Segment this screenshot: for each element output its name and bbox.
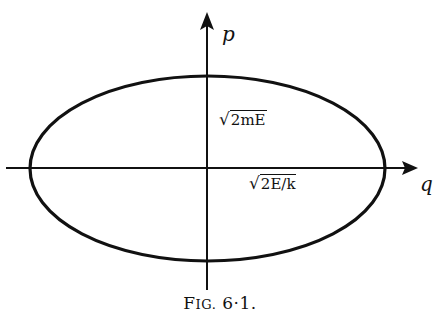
caption-prefix-rest: IG.: [196, 297, 217, 312]
q-intercept-label: √2E/k: [249, 173, 296, 193]
radical-sign: √: [249, 173, 260, 193]
p-intercept-radicand: 2mE: [230, 110, 267, 129]
caption-prefix-first: F: [183, 293, 195, 313]
q-axis-label: q: [420, 172, 433, 196]
phase-space-diagram: [0, 0, 440, 325]
figure-caption: FIG. 6·1.: [0, 293, 440, 313]
p-axis-label: p: [222, 22, 235, 46]
q-intercept-radicand: 2E/k: [260, 174, 297, 193]
p-intercept-label: √2mE: [219, 109, 267, 129]
caption-number: 6·1.: [222, 293, 256, 313]
radical-sign: √: [219, 109, 230, 129]
